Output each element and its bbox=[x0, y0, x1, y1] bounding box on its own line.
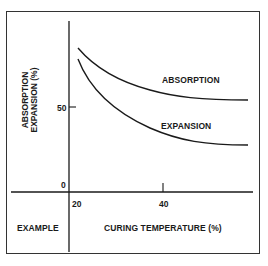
absorption-curve bbox=[78, 48, 248, 100]
y-tick-label-0: 0 bbox=[61, 180, 66, 190]
x-axis-label: CURING TEMPERATURE (%) bbox=[104, 223, 222, 233]
x-tick-label-20: 20 bbox=[72, 199, 81, 209]
expansion-curve bbox=[78, 59, 248, 145]
x-tick-label-40: 40 bbox=[159, 199, 168, 209]
absorption-series-label: ABSORPTION bbox=[162, 75, 220, 85]
y-axis-label-line2: EXPANSION (%) bbox=[30, 67, 39, 132]
example-label: EXAMPLE bbox=[17, 223, 59, 233]
y-tick-label-50: 50 bbox=[57, 103, 66, 113]
expansion-series-label: EXPANSION bbox=[161, 121, 211, 131]
y-axis-label: ABSORPTION EXPANSION (%) bbox=[21, 67, 39, 132]
